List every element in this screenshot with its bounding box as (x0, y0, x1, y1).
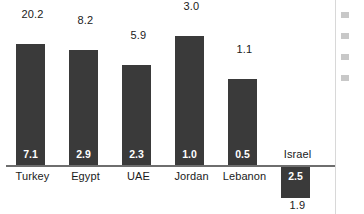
bar-chart-figure: 20.2 7.1 Turkey 8.2 2.9 Egypt 5.9 2.3 UA… (0, 0, 364, 214)
outer-value-jordan: 3.0 (165, 0, 218, 12)
bar-jordan (175, 36, 204, 165)
inner-value-egypt: 2.9 (69, 148, 98, 160)
bar-group-turkey: 20.2 7.1 Turkey (6, 0, 59, 214)
clipped-text-fragments (335, 0, 364, 214)
text-fragment (341, 12, 349, 18)
outer-value-israel: 1.9 (271, 199, 324, 211)
outer-value-turkey: 20.2 (6, 8, 59, 20)
outer-value-uae: 5.9 (112, 29, 165, 41)
bar-group-jordan: 3.0 1.0 Jordan (165, 0, 218, 214)
bar-group-lebanon: 1.1 0.5 Lebanon (218, 0, 271, 214)
category-label-lebanon: Lebanon (212, 170, 277, 182)
inner-value-uae: 2.3 (122, 148, 151, 160)
bar-turkey (16, 44, 45, 165)
text-fragment (341, 33, 349, 39)
bar-group-uae: 5.9 2.3 UAE (112, 0, 165, 214)
bar-group-egypt: 8.2 2.9 Egypt (59, 0, 112, 214)
outer-value-lebanon: 1.1 (218, 43, 271, 55)
inner-value-turkey: 7.1 (16, 148, 45, 160)
inner-value-israel: 2.5 (281, 170, 310, 182)
outer-value-egypt: 8.2 (59, 14, 112, 26)
bar-group-israel: Israel 2.5 1.9 (271, 0, 324, 214)
zero-axis-line (6, 165, 336, 167)
category-label-israel: Israel (265, 148, 330, 160)
inner-value-jordan: 1.0 (175, 148, 204, 160)
plot-area: 20.2 7.1 Turkey 8.2 2.9 Egypt 5.9 2.3 UA… (0, 0, 336, 214)
text-fragment (341, 54, 349, 60)
text-fragment (341, 75, 349, 81)
inner-value-lebanon: 0.5 (228, 148, 257, 160)
